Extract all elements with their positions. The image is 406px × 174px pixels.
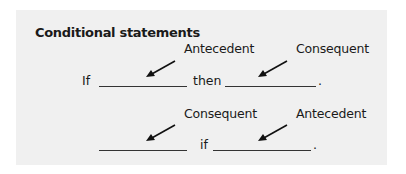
arrow-icon bbox=[144, 124, 176, 142]
arrow-icon bbox=[256, 60, 288, 78]
row2-antecedent-blank bbox=[213, 150, 311, 151]
row1-antecedent-blank bbox=[99, 86, 187, 87]
row1-period: . bbox=[318, 73, 322, 88]
row2-consequent-blank bbox=[99, 150, 187, 151]
row1-label-antecedent: Antecedent bbox=[184, 41, 254, 56]
row1-label-consequent: Consequent bbox=[296, 41, 369, 56]
row2-label-consequent: Consequent bbox=[184, 106, 257, 121]
row2-period: . bbox=[313, 137, 317, 152]
row1-then-word: then bbox=[193, 73, 221, 88]
row2-if-word: if bbox=[200, 137, 208, 152]
row2-label-antecedent: Antecedent bbox=[296, 106, 366, 121]
row1-if-word: If bbox=[82, 73, 90, 88]
arrow-icon bbox=[256, 124, 288, 142]
arrow-icon bbox=[144, 60, 176, 78]
row1-consequent-blank bbox=[225, 86, 316, 87]
figure-title: Conditional statements bbox=[35, 25, 200, 40]
